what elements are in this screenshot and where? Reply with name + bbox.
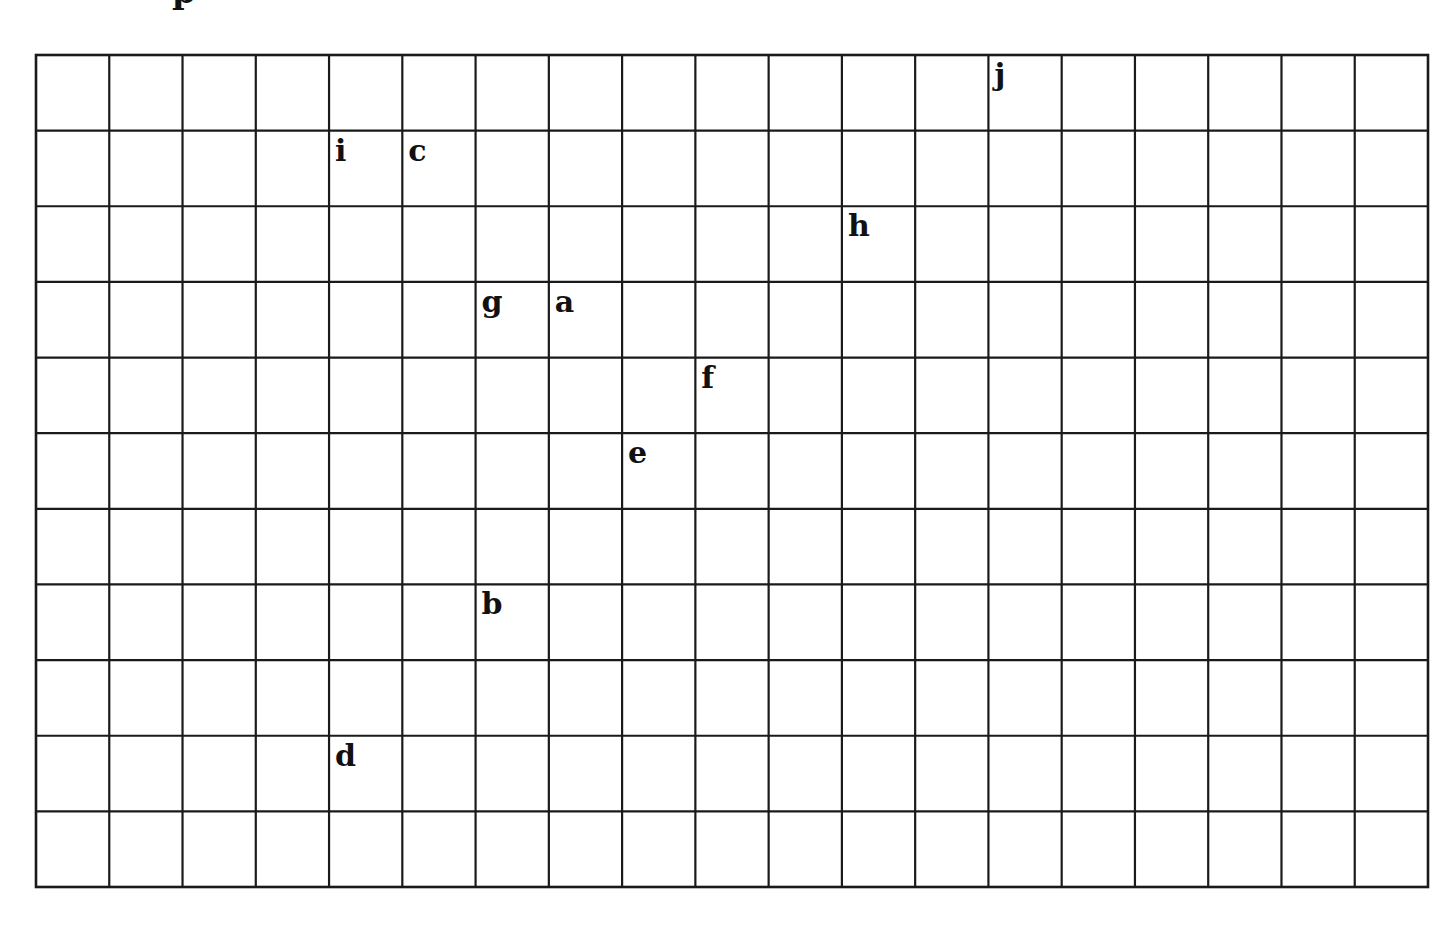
cell-label-d: d xyxy=(335,738,356,773)
cell-label-e: e xyxy=(628,435,647,470)
cell-label-i: i xyxy=(335,133,346,168)
cell-label-a: a xyxy=(555,284,574,319)
cell-label-h: h xyxy=(848,208,870,243)
cell-label-g: g xyxy=(482,284,503,319)
grid-lines xyxy=(36,55,1428,887)
grid-border xyxy=(36,55,1428,887)
grid-labels: abcdefghij xyxy=(335,57,1005,773)
cell-label-c: c xyxy=(408,133,426,168)
cell-label-f: f xyxy=(701,360,716,395)
cell-label-b: b xyxy=(482,586,503,621)
cell-label-j: j xyxy=(991,57,1005,92)
letter-grid: abcdefghij xyxy=(0,0,1451,926)
